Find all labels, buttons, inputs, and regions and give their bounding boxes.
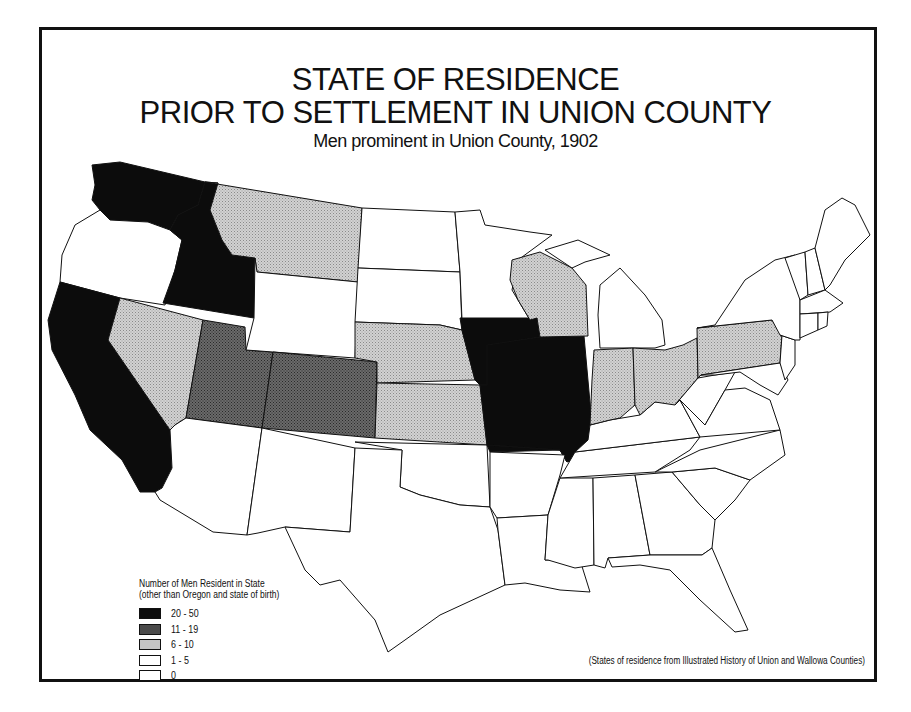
legend-label: 6 - 10 bbox=[171, 639, 194, 650]
state-north-dakota bbox=[358, 208, 460, 272]
legend-item-11-19: 11 - 19 bbox=[139, 622, 304, 638]
state-rhode-island bbox=[818, 312, 828, 330]
state-kansas bbox=[375, 383, 487, 445]
legend-title: Number of Men Resident in State (other t… bbox=[139, 578, 279, 600]
legend-swatch-dark-stipple bbox=[139, 624, 161, 635]
legend-label: 11 - 19 bbox=[171, 624, 198, 635]
state-illinois bbox=[480, 336, 592, 462]
legend-swatch-white bbox=[139, 670, 161, 681]
state-indiana bbox=[590, 348, 635, 425]
state-new-mexico bbox=[247, 428, 355, 535]
legend-item-20-50: 20 - 50 bbox=[139, 606, 304, 622]
map-legend: Number of Men Resident in State (other t… bbox=[139, 578, 304, 684]
source-note: (States of residence from Illustrated Hi… bbox=[589, 655, 865, 666]
legend-item-1-5: 1 - 5 bbox=[139, 653, 304, 669]
legend-item-0: 0 bbox=[139, 668, 304, 684]
state-maine bbox=[815, 198, 870, 290]
state-colorado bbox=[262, 352, 377, 438]
legend-label: 1 - 5 bbox=[171, 655, 189, 666]
state-michigan bbox=[598, 268, 665, 348]
legend-label: 0 bbox=[171, 670, 176, 681]
state-connecticut bbox=[800, 313, 818, 338]
state-florida bbox=[608, 548, 748, 632]
state-arizona bbox=[155, 418, 262, 535]
legend-swatch-black bbox=[139, 608, 161, 619]
state-south-dakota bbox=[355, 268, 462, 330]
us-states-map bbox=[0, 0, 911, 712]
legend-swatch-white bbox=[139, 655, 161, 666]
legend-label: 20 - 50 bbox=[171, 608, 199, 619]
legend-title-line1: Number of Men Resident in State bbox=[139, 578, 279, 589]
legend-swatch-light-stipple bbox=[139, 639, 161, 650]
legend-item-6-10: 6 - 10 bbox=[139, 637, 304, 653]
legend-title-line2: (other than Oregon and state of birth) bbox=[139, 589, 279, 600]
